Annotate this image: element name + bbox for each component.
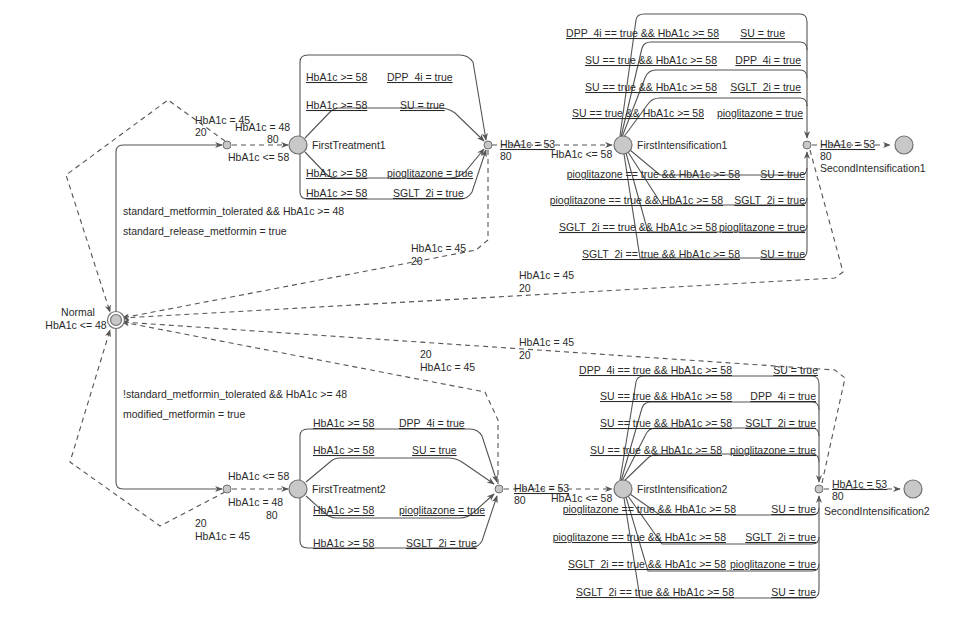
state-second-intensification-2[interactable]: [904, 480, 922, 498]
fi1-edge-update-2: DPP_4i = true: [735, 54, 801, 66]
fi2-branch-prob: 80: [832, 490, 844, 502]
ft2-branch-prob: 80: [514, 494, 526, 506]
fi2-edge-guard-8: SGLT_2i == true && HbA1c >= 58: [576, 586, 734, 598]
edge-branch2-fail-to-normal[interactable]: [70, 330, 225, 526]
fi1-edge-guard-3: SU == true && HbA1c >= 58: [585, 81, 717, 93]
state-label-second-intensification-2: SecondIntensification2: [824, 505, 930, 517]
fi2-edge-update-5: SU = true: [771, 503, 816, 515]
branch-point-ft1[interactable]: [484, 141, 492, 149]
state-label-first-treatment-1: FirstTreatment1: [312, 139, 386, 151]
state-first-treatment-2[interactable]: [289, 480, 307, 498]
state-first-intensification-2[interactable]: [614, 480, 632, 498]
fi2-edge-update-2: DPP_4i = true: [750, 390, 816, 402]
edge-fi2-2[interactable]: [621, 402, 819, 481]
fi2-branch-fail-prob: 20: [519, 349, 531, 361]
state-label-first-treatment-2: FirstTreatment2: [312, 483, 386, 495]
fi1-edge-guard-1: DPP_4i == true && HbA1c >= 58: [566, 27, 719, 39]
ft2-entry-update: modified_metformin = true: [123, 408, 245, 420]
state-first-intensification-1[interactable]: [614, 136, 632, 154]
ft1-branch-prob: 80: [500, 150, 512, 162]
branch1-success-prob: 80: [267, 133, 279, 145]
ft1-edge-update-4: SGLT_2i = true: [393, 187, 464, 199]
ft2-entry-guard: !standard_metformin_tolerated && HbA1c >…: [123, 388, 347, 400]
fi2-edge-guard-5: pioglitazone == true && HbA1c >= 58: [563, 503, 737, 515]
fi2-edge-update-7: pioglitazone = true: [730, 558, 816, 570]
fi1-edge-update-6: SGLT_2i = true: [734, 194, 805, 206]
fi1-branch-fail-assign: HbA1c = 45: [519, 269, 574, 281]
branch-point-fi2[interactable]: [815, 485, 823, 493]
ft1-entry-guard: standard_metformin_tolerated && HbA1c >=…: [123, 205, 344, 217]
branch-point-1[interactable]: [223, 141, 231, 149]
fi1-edge-update-8: SU = true: [760, 248, 805, 260]
branch1-success-guard: HbA1c <= 58: [228, 151, 289, 163]
fi1-branch-assign: HbA1c = 53: [820, 138, 875, 150]
fi2-edge-update-8: SU = true: [771, 586, 816, 598]
ft2-edge-update-2: SU = true: [412, 444, 457, 456]
branch2-fail-prob: 20: [195, 517, 207, 529]
ft1-edge-guard-4: HbA1c >= 58: [306, 187, 367, 199]
fi2-branch-assign: HbA1c = 53: [832, 478, 887, 490]
ft2-edge-update-1: DPP_4i = true: [399, 417, 465, 429]
fi1-edge-update-3: SGLT_2i = true: [730, 81, 801, 93]
fi2-edge-guard-3: SU == true && HbA1c >= 58: [600, 417, 732, 429]
fi1-edge-update-4: pioglitazone = true: [717, 107, 803, 119]
branch-point-fi1[interactable]: [803, 141, 811, 149]
fi2-edge-update-6: SGLT_2i = true: [745, 531, 816, 543]
state-normal[interactable]: [108, 312, 125, 329]
state-first-treatment-1[interactable]: [289, 136, 307, 154]
timed-automaton-diagram: Normal HbA1c <= 48 HbA1c = 45 20 HbA1c =…: [0, 0, 976, 625]
ft2-branch-fail-assign: HbA1c = 45: [420, 361, 475, 373]
ft1-edge-guard-1: HbA1c >= 58: [306, 71, 367, 83]
fi1-edge-update-5: SU = true: [760, 168, 805, 180]
fi1-entry-guard: HbA1c <= 58: [551, 148, 612, 160]
fi2-edge-update-3: SGLT_2i = true: [745, 417, 816, 429]
fi1-edge-guard-5: pioglitazone == true && HbA1c >= 58: [567, 168, 741, 180]
fi1-edge-guard-7: SGLT_2i == true && HbA1c >= 58: [559, 221, 717, 233]
labels: Normal HbA1c <= 48 HbA1c = 45 20 HbA1c =…: [45, 27, 929, 598]
fi2-edge-update-4: pioglitazone = true: [730, 444, 816, 456]
ft2-edge-update-3: pioglitazone = true: [399, 504, 485, 516]
fi2-edge-guard-1: DPP_4i == true && HbA1c >= 58: [579, 364, 732, 376]
ft1-edge-update-2: SU = true: [400, 99, 445, 111]
fi1-branch-fail-prob: 20: [519, 282, 531, 294]
ft1-edge-guard-3: HbA1c >= 58: [306, 167, 367, 179]
fi1-edge-guard-6: pioglitazone == true && HbA1c >= 58: [550, 194, 724, 206]
edge-ft1-dpp4i[interactable]: [300, 55, 486, 140]
ft1-branch-fail-prob: 20: [411, 255, 423, 267]
state-label-first-intensification-1: FirstIntensification1: [637, 139, 728, 151]
branch2-success-prob: 80: [266, 509, 278, 521]
ft2-edge-update-4: SGLT_2i = true: [406, 537, 477, 549]
fi2-edge-guard-6: pioglitazone == true && HbA1c >= 58: [553, 531, 727, 543]
ft2-edge-guard-2: HbA1c >= 58: [313, 444, 374, 456]
ft2-branch-fail-prob: 20: [420, 348, 432, 360]
ft1-branch-fail-assign: HbA1c = 45: [411, 242, 466, 254]
state-second-intensification-1[interactable]: [895, 136, 913, 154]
ft1-edge-update-3: pioglitazone = true: [387, 167, 473, 179]
branch2-success-assign: HbA1c = 48: [228, 496, 283, 508]
state-label-first-intensification-2: FirstIntensification2: [637, 483, 728, 495]
branch-point-ft2[interactable]: [495, 485, 503, 493]
fi2-edge-update-1: SU = true: [773, 364, 818, 376]
edge-ft1-su[interactable]: [305, 108, 484, 141]
state-invariant-normal: HbA1c <= 48: [45, 319, 106, 331]
edge-ft2-su[interactable]: [306, 458, 494, 484]
ft1-branch-assign: HbA1c = 53: [500, 138, 555, 150]
branch1-success-assign: HbA1c = 48: [235, 121, 290, 133]
ft1-entry-update: standard_release_metformin = true: [123, 225, 287, 237]
fi2-edge-guard-7: SGLT_2i == true && HbA1c >= 58: [568, 558, 726, 570]
fi2-edge-guard-4: SU == true && HbA1c >= 58: [590, 444, 722, 456]
branch2-success-guard: HbA1c <= 58: [228, 470, 289, 482]
fi1-branch-prob: 80: [820, 150, 832, 162]
fi1-edge-update-1: SU = true: [740, 27, 785, 39]
fi1-edge-update-7: pioglitazone = true: [719, 221, 805, 233]
edge-fi2-4[interactable]: [623, 454, 819, 482]
fi2-branch-fail-assign: HbA1c = 45: [519, 336, 574, 348]
edge-ft2branch-fail-to-normal[interactable]: [122, 322, 498, 484]
branch1-fail-prob: 20: [195, 126, 207, 138]
state-label-second-intensification-1: SecondIntensification1: [820, 162, 926, 174]
branch2-fail-assign: HbA1c = 45: [195, 530, 250, 542]
fi1-edge-guard-4: SU == true && HbA1c >= 58: [572, 107, 704, 119]
state-label-normal: Normal: [61, 306, 95, 318]
branch-point-2[interactable]: [223, 485, 231, 493]
ft2-edge-guard-1: HbA1c >= 58: [313, 417, 374, 429]
